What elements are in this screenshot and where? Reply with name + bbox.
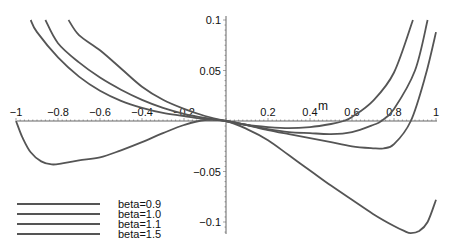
series-line-beta-0-9	[69, 20, 413, 128]
x-tick-label: 0.4	[302, 106, 317, 118]
x-axis-label: m	[318, 99, 328, 113]
y-tick-label: 0.05	[200, 65, 221, 77]
chart-canvas: −1−0.8−0.6−0.4−0.20.20.40.60.81 0.10.05−…	[0, 0, 449, 250]
x-tick-label: −1	[10, 106, 23, 118]
legend-item: beta=1.5	[17, 228, 161, 240]
x-tick-labels: −1−0.8−0.6−0.4−0.20.20.40.60.81	[10, 106, 439, 118]
x-tick-label: 1	[433, 106, 439, 118]
x-tick-label: −0.8	[47, 106, 69, 118]
legend-label: beta=1.5	[118, 228, 161, 240]
legend: beta=0.9 beta=1.0 beta=1.1 beta=1.5	[17, 198, 161, 240]
series-line-beta-1-1	[31, 20, 436, 149]
y-tick-label: 0.1	[206, 14, 221, 26]
y-tick-label: −0.05	[193, 166, 221, 178]
y-tick-label: −0.1	[199, 216, 221, 228]
x-tick-label: 0.2	[260, 106, 275, 118]
x-tick-label: −0.6	[89, 106, 111, 118]
